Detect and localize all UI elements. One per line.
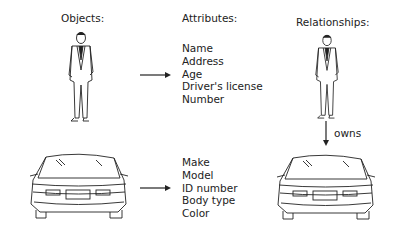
attribute-item: Make [182, 156, 238, 169]
attribute-item: Model [182, 169, 238, 182]
attribute-item: Driver's license [182, 80, 263, 93]
arrow-down-icon [322, 121, 330, 147]
attribute-item: Address [182, 55, 263, 68]
arrow-right-icon [140, 71, 172, 79]
relationships-header: Relationships: [296, 16, 369, 28]
car-attribute-list: Make Model ID number Body type Color [182, 156, 238, 220]
attribute-item: Name [182, 42, 263, 55]
attribute-item: Age [182, 68, 263, 81]
person-attribute-list: Name Address Age Driver's license Number [182, 42, 263, 106]
attribute-item: Body type [182, 194, 238, 207]
person-icon [312, 33, 342, 119]
arrow-right-icon [140, 184, 172, 192]
attributes-header: Attributes: [182, 12, 237, 24]
car-icon [273, 153, 378, 221]
person-icon [66, 30, 96, 122]
car-icon [26, 152, 131, 220]
attribute-item: ID number [182, 182, 238, 195]
objects-header: Objects: [61, 12, 104, 24]
attribute-item: Number [182, 93, 263, 106]
relationship-label: owns [334, 127, 361, 140]
attribute-item: Color [182, 207, 238, 220]
